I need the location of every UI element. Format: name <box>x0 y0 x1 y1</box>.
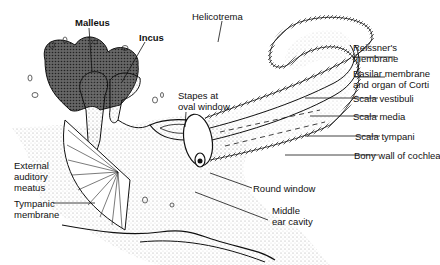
ear-anatomy-diagram: Malleus Incus Helicotrema Reissner's mem… <box>0 0 440 265</box>
label-scala-tympani: Scala tympani <box>355 131 415 142</box>
label-tympanic-membrane: Tympanic membrane <box>14 198 59 220</box>
label-scala-vestibuli: Scala vestibuli <box>353 93 414 104</box>
label-helicotrema: Helicotrema <box>192 11 243 22</box>
label-round-window: Round window <box>253 183 315 194</box>
label-incus: Incus <box>139 32 164 43</box>
label-bony-wall-of-cochlea: Bony wall of cochlea <box>354 150 440 161</box>
label-basilar-membrane: Basilar membrane and organ of Corti <box>353 68 430 90</box>
label-stapes-oval-window: Stapes at oval window <box>178 90 230 112</box>
label-external-auditory-meatus: External auditory meatus <box>14 160 49 193</box>
label-scala-media: Scala media <box>353 111 405 122</box>
label-middle-ear-cavity: Middle ear cavity <box>272 205 313 227</box>
label-malleus: Malleus <box>75 17 110 28</box>
label-reissners-membrane: Reissner's membrane <box>353 42 398 64</box>
